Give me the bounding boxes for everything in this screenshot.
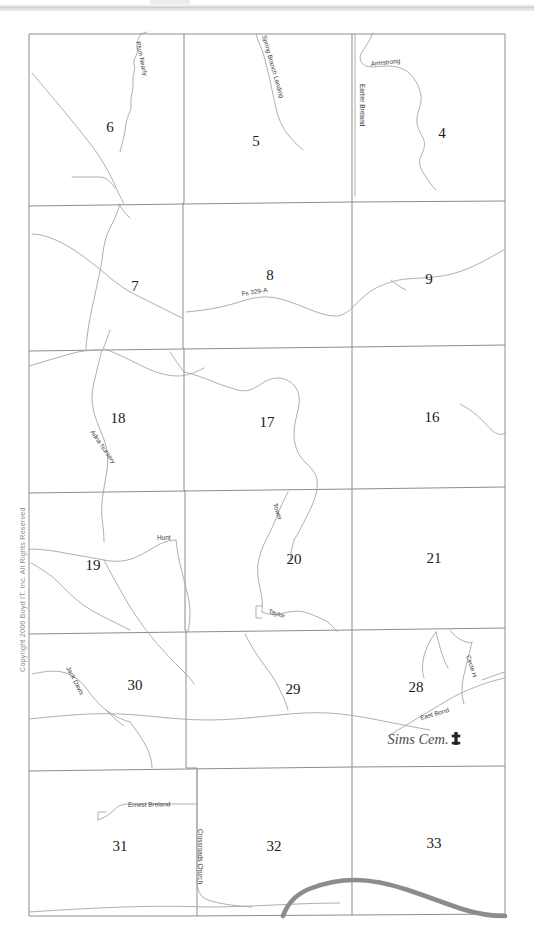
road-28-upper	[436, 632, 448, 668]
grid-line-horizontal-4	[29, 628, 505, 634]
grid-line-horizontal-3	[29, 487, 505, 493]
highway-route	[283, 880, 505, 916]
road-section7-upper	[32, 234, 110, 278]
road-32-bottom	[208, 903, 340, 907]
section-number: 8	[266, 267, 274, 283]
grid-line-vertical-mid-west	[183, 34, 197, 916]
grid-line-horizontal-1	[29, 201, 505, 206]
grid-line-horizontal-bottom	[29, 914, 505, 916]
road-label: Adna Nursery	[88, 429, 117, 466]
road-section29-upper	[245, 634, 288, 710]
section-number: 6	[106, 119, 114, 135]
road-label: Crossroads Church	[197, 829, 204, 884]
road-18-north	[103, 330, 110, 349]
road-section17-main	[184, 372, 317, 540]
road-section6-diagonal	[32, 73, 124, 204]
road-section6-spur	[72, 177, 115, 188]
poi-label: Sims Cem.	[387, 731, 448, 747]
road-28-north	[450, 630, 472, 643]
road-section7-branch	[110, 278, 182, 318]
section-number: 18	[111, 410, 126, 426]
road-30-spur	[106, 710, 124, 726]
road-31-bottom	[29, 906, 208, 912]
road-18-upper-branch	[29, 350, 100, 366]
road-crossroads-church	[197, 770, 252, 907]
cemetery-cross-icon	[452, 732, 460, 745]
section-number: 7	[131, 278, 139, 294]
road-hunt-vertical	[176, 540, 190, 632]
poi-group: Sims Cem.	[387, 731, 460, 747]
section-number: 31	[113, 838, 128, 854]
road-19-west-loop	[31, 563, 130, 630]
section-number: 28	[409, 679, 424, 695]
road-label: Spring Branch Landing	[260, 34, 286, 99]
road-28-hook	[423, 632, 437, 678]
section-grid	[29, 34, 505, 916]
copyright-notice: Copyright 2006 Boyd IT, Inc. All Rights …	[18, 482, 27, 672]
section-number: 9	[425, 271, 433, 287]
plat-map-canvas: 654789181716192021302928313233 Plum Near…	[0, 0, 534, 948]
section-number: 17	[260, 414, 276, 430]
road-18-crossbranch	[105, 349, 204, 376]
section-number: 21	[427, 550, 442, 566]
road-label: Hunt	[157, 534, 171, 541]
road-section9-feeder	[391, 280, 406, 290]
road-label: Jack Davis	[65, 665, 86, 696]
road-network	[29, 32, 505, 912]
road-fs-329-a	[186, 297, 352, 316]
road-section16-east	[460, 404, 505, 434]
road-label-group: Plum NearlySpring Branch LandingArmstron…	[65, 34, 479, 884]
road-hunt	[29, 540, 176, 561]
road-section17-extra	[170, 352, 184, 372]
road-30-lower	[130, 722, 152, 768]
road-label: Taylor	[267, 607, 287, 620]
section-number: 29	[286, 681, 301, 697]
section-number: 32	[267, 838, 282, 854]
road-label: Ernest Breland	[128, 800, 171, 808]
road-section7-main	[86, 204, 120, 350]
road-label: Circle H	[465, 654, 479, 678]
section-number: 19	[86, 557, 101, 573]
road-label: Earlier Breland	[359, 84, 366, 127]
road-label: Plum Nearly	[134, 41, 149, 77]
section-number: 20	[287, 551, 302, 567]
section-number: 16	[425, 409, 441, 425]
road-taylor-hook	[256, 606, 262, 618]
grid-line-horizontal-5	[29, 766, 505, 771]
road-tower	[258, 492, 288, 612]
road-label: Fs 329-A	[241, 286, 268, 297]
highway-main-curve	[283, 880, 505, 916]
road-section7-spur2	[119, 204, 130, 218]
road-19-diag	[104, 560, 194, 684]
road-label: Tower	[272, 502, 284, 521]
section-number: 33	[427, 835, 442, 851]
scanned-map-page: 654789181716192021302928313233 Plum Near…	[0, 0, 534, 948]
section-number: 4	[438, 125, 446, 141]
road-30-main-east	[29, 713, 430, 730]
section-number: 5	[252, 133, 260, 149]
section-number: 30	[128, 677, 143, 693]
